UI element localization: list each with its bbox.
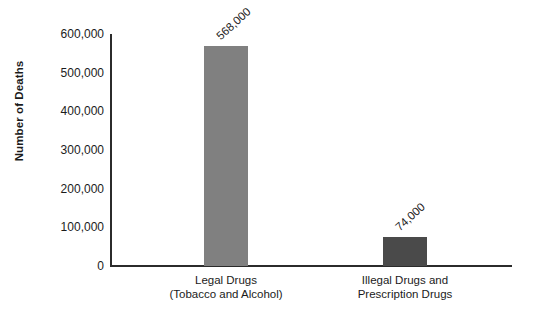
bar-value-label: 74,000 [393, 201, 427, 233]
category-label-line: (Tobacco and Alcohol) [126, 287, 326, 301]
y-axis-tick-labels: 600,000500,000400,000300,000200,000100,0… [36, 0, 104, 322]
bar [383, 237, 427, 266]
y-axis-tick-label: 500,000 [36, 67, 104, 79]
y-axis-tick-label: 300,000 [36, 144, 104, 156]
plot-area: 568,00074,000 [110, 34, 512, 266]
category-label-line: Legal Drugs [126, 273, 326, 287]
bar-chart-figure: Number of Deaths 600,000500,000400,00030… [0, 0, 535, 322]
y-axis-tick-label: 400,000 [36, 105, 104, 117]
y-axis-title: Number of Deaths [13, 51, 27, 171]
x-axis-category-label: Legal Drugs(Tobacco and Alcohol) [126, 273, 326, 301]
category-label-line: Illegal Drugs and [305, 273, 505, 287]
category-label-line: Prescription Drugs [305, 287, 505, 301]
bar [204, 46, 248, 266]
y-axis-tick-label: 0 [36, 260, 104, 272]
bar-value-label: 568,000 [214, 6, 253, 43]
y-axis-tick-label: 200,000 [36, 183, 104, 195]
x-axis-category-label: Illegal Drugs andPrescription Drugs [305, 273, 505, 301]
y-axis-tick-label: 100,000 [36, 221, 104, 233]
y-axis-tick-label: 600,000 [36, 28, 104, 40]
